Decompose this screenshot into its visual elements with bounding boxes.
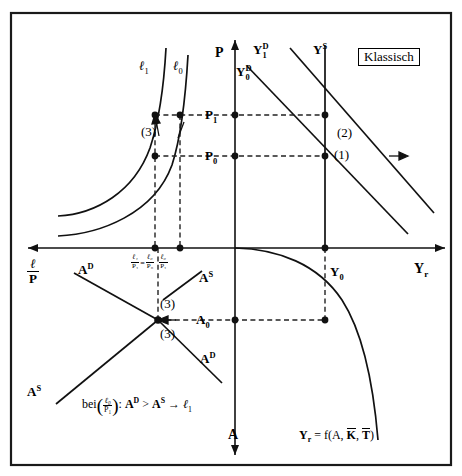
- output-0-sub: 0: [339, 272, 343, 282]
- demand-1-base: Y: [253, 42, 262, 57]
- axis-label-price: P: [215, 46, 224, 60]
- axis-label-real-wage-fraction: ℓ P: [27, 257, 39, 287]
- price-0-base: P: [205, 148, 213, 163]
- diagram-vector-layer: [0, 0, 462, 476]
- tick-label-real-wage-group: ℓ₁ P₁ = ℓ₀ P₀ ℓ₀ P₁: [131, 253, 168, 270]
- prod-fn-k: K: [347, 428, 356, 442]
- annotation-step-3-lower: (3): [160, 327, 175, 340]
- price-1-base: P: [205, 107, 213, 122]
- caption-arrow: →: [168, 397, 180, 411]
- annotation-step-1: (1): [334, 148, 349, 161]
- caption-fraction: ℓ₀ P₁: [103, 397, 112, 415]
- annotation-step-2: (2): [337, 126, 352, 139]
- tick-real-wage-0-den: P₀: [146, 263, 154, 270]
- tick-real-wage-0: ℓ₀ P₀: [146, 254, 154, 270]
- caption-frac-den: P₁: [103, 406, 112, 414]
- real-wage-denominator: P: [27, 272, 39, 286]
- curve-label-l0: ℓ0: [173, 59, 183, 75]
- real-wage-numerator: ℓ: [27, 257, 39, 272]
- caption-a-sup: D: [134, 396, 140, 405]
- tick-label-output-0: Y0: [330, 265, 344, 281]
- as-upper-sup: S: [208, 269, 213, 279]
- curve-label-l1-sub: 1: [144, 66, 148, 76]
- axis-label-real-wage: ℓ P: [27, 257, 39, 287]
- ad-upper-sup: D: [87, 261, 93, 271]
- tick-label-price-1: P1: [205, 108, 217, 124]
- caption-result-sub: 1: [188, 405, 192, 414]
- as-lower-sup: S: [36, 383, 41, 393]
- ad-lower-base: A: [200, 351, 209, 366]
- prod-fn-body: = f(A, K, T): [314, 428, 374, 442]
- demand-1-sub: 1: [262, 50, 266, 60]
- employment-0-base: A: [196, 312, 205, 327]
- axis-label-output-base: Y: [414, 261, 424, 276]
- curve-label-l1: ℓ1: [139, 59, 149, 75]
- annotation-step-3-upper: (3): [141, 125, 156, 138]
- price-1-sub: 1: [213, 115, 217, 125]
- curve-label-labour-demand-lower: AD: [200, 351, 215, 365]
- caption-colon: :: [119, 397, 122, 411]
- price-0-sub: 0: [213, 156, 217, 166]
- employment-0-sub: 0: [205, 320, 209, 330]
- title-box-klassisch: Klassisch: [358, 48, 420, 66]
- prod-fn-base: Y: [299, 428, 308, 442]
- figure-frame: [11, 13, 451, 465]
- curve-label-labour-supply-lower: AS: [27, 384, 41, 398]
- caption-gt: >: [142, 397, 149, 411]
- caption-prefix: bei: [82, 397, 97, 411]
- curve-label-labour-demand-upper: AD: [78, 262, 93, 276]
- tick-real-wage-mid: ℓ₀ P₁: [159, 254, 167, 270]
- ad-lower-sup: D: [209, 350, 215, 360]
- tick-real-wage-mid-den: P₁: [159, 263, 167, 270]
- tick-label-employment-0: A0: [196, 313, 210, 329]
- ad-upper-base: A: [78, 262, 87, 277]
- curve-label-demand-1: YD1: [253, 42, 267, 59]
- curve-label-demand-0: YD0: [236, 64, 250, 81]
- tick-equals: =: [140, 259, 145, 268]
- figure-canvas: Klassisch P A Yr ℓ P ℓ1 ℓ0 YD1 YD0 YS P1…: [0, 0, 462, 476]
- prod-fn-t: T: [362, 428, 370, 442]
- caption-a-base: A: [125, 397, 134, 411]
- as-upper-base: A: [199, 270, 208, 285]
- annotation-step-3-mid: (3): [160, 297, 175, 310]
- tick-label-price-0: P0: [205, 149, 217, 165]
- caption-b-base: A: [152, 397, 161, 411]
- axis-label-output-sub: r: [424, 269, 428, 279]
- prod-fn-sub: r: [308, 435, 311, 444]
- demand-0-base: Y: [236, 64, 245, 79]
- curve-label-labour-supply-upper: AS: [199, 270, 213, 284]
- tick-real-wage-1: ℓ₁ P₁: [131, 254, 139, 270]
- supply-sup: S: [322, 41, 327, 51]
- as-lower-base: A: [27, 384, 36, 399]
- curve-label-supply: YS: [313, 42, 327, 56]
- supply-base: Y: [313, 42, 322, 57]
- demand-0-sub: 0: [245, 72, 249, 82]
- axis-label-employment: A: [228, 428, 238, 442]
- annotation-production-function: Yr = f(A, K, T): [299, 428, 374, 444]
- tick-real-wage-1-den: P₁: [131, 263, 139, 270]
- output-0-base: Y: [330, 264, 339, 279]
- axis-label-output: Yr: [414, 262, 428, 279]
- caption-b-sup: S: [161, 396, 165, 405]
- annotation-caption: bei( ℓ₀ P₁ ): AD > AS → ℓ1: [82, 396, 192, 415]
- curve-label-l0-sub: 0: [178, 66, 182, 76]
